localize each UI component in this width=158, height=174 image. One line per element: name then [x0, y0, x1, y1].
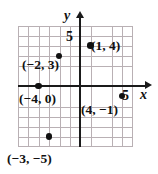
y-axis-arrow-icon — [76, 11, 84, 18]
y-axis-line — [79, 17, 81, 147]
point-label-neg4-0: (−4, 0) — [19, 92, 56, 106]
point-label-4-neg1: (4, −1) — [81, 103, 118, 117]
point-label-neg2-3: (−2, 3) — [22, 58, 59, 72]
coordinate-plane-figure: y x 5 5 (−2, 3) (1, 4) (−4, 0) (4, −1) (… — [0, 0, 158, 174]
point-label-1-4: (1, 4) — [91, 39, 120, 53]
y-axis-tick-label-5: 5 — [66, 30, 73, 44]
y-axis-label: y — [64, 9, 70, 23]
data-point-neg4-0 — [35, 83, 41, 89]
data-point-neg3-neg5 — [46, 133, 52, 139]
point-label-neg3-neg5: (−3, −5) — [7, 152, 52, 166]
x-axis-label: x — [140, 88, 147, 102]
